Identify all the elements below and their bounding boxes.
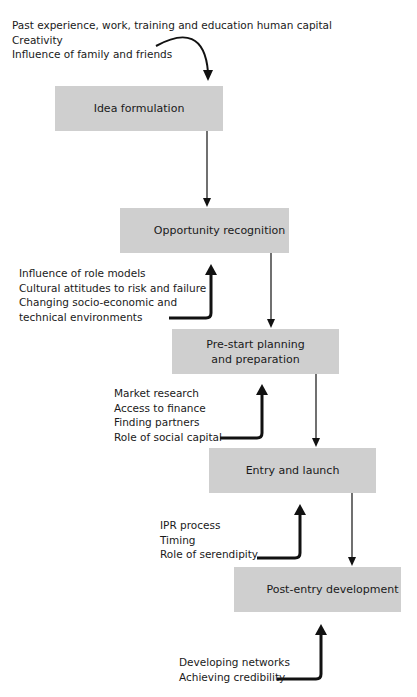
influence-item: Influence of role models [19, 266, 206, 281]
influence-arrow-4 [257, 504, 306, 558]
stage-label: Entry and launch [246, 463, 340, 478]
influence-item: Changing socio-economic and [19, 295, 206, 310]
influence-item: Achieving credibility [179, 670, 290, 685]
influence-item: Cultural attitudes to risk and failure [19, 281, 206, 296]
influence-item: Developing networks [179, 655, 290, 670]
influence-item: Creativity [12, 33, 332, 48]
influence-item: technical environments [19, 310, 206, 325]
influence-item: Finding partners [114, 415, 222, 430]
influence-item: Access to finance [114, 401, 222, 416]
flow-arrow-1 [203, 131, 211, 207]
flow-arrow-4 [348, 493, 356, 566]
stage-entry-and-launch: Entry and launch [209, 448, 376, 493]
stage-post-entry-development: Post-entry development [234, 567, 401, 612]
influences-entry: IPR process Timing Role of serendipity [160, 518, 258, 562]
influences-post-entry: Developing networks Achieving credibilit… [179, 655, 290, 684]
stage-idea-formulation: Idea formulation [55, 86, 223, 131]
influences-pre-start: Market research Access to finance Findin… [114, 386, 222, 444]
stage-label: Opportunity recognition [124, 223, 285, 238]
stage-label: Post-entry development [236, 582, 398, 597]
stage-pre-start-planning: Pre-start planning and preparation [172, 329, 339, 374]
influence-item: Timing [160, 533, 258, 548]
influence-item: Influence of family and friends [12, 47, 332, 62]
influence-item: Past experience, work, training and educ… [12, 18, 332, 33]
stage-label: Idea formulation [94, 101, 185, 116]
influence-arrow-3 [220, 384, 268, 438]
influence-item: Market research [114, 386, 222, 401]
influence-item: Role of serendipity [160, 547, 258, 562]
stage-label: Pre-start planning and preparation [196, 337, 316, 367]
stage-opportunity-recognition: Opportunity recognition [120, 208, 289, 253]
influences-idea: Past experience, work, training and educ… [12, 18, 332, 62]
flow-arrow-3 [312, 374, 320, 447]
influence-item: IPR process [160, 518, 258, 533]
influence-item: Role of social capital [114, 430, 222, 445]
flow-arrow-2 [267, 253, 275, 328]
influences-opportunity: Influence of role models Cultural attitu… [19, 266, 206, 324]
